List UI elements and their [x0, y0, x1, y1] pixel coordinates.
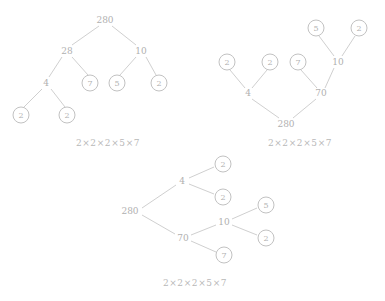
node-10: 10	[135, 47, 146, 56]
tree-edge	[49, 57, 62, 77]
node-7-leaf: 7	[216, 247, 233, 264]
factorization-caption: 2×2×2×5×7	[76, 138, 140, 148]
tree-edge	[142, 185, 176, 208]
node-2-leaf-a: 2	[151, 75, 168, 92]
node-280-root: 280	[121, 207, 138, 216]
node-10: 10	[332, 58, 343, 67]
node-2-leaf-a: 2	[351, 20, 368, 37]
tree-edge	[319, 36, 334, 56]
factorization-caption: 2×2×2×5×7	[268, 138, 332, 148]
tree-edge	[120, 57, 136, 75]
node-5-leaf: 5	[308, 20, 325, 37]
node-280-root: 280	[96, 16, 113, 25]
tree-edge	[342, 36, 355, 56]
node-2-leaf-b: 2	[215, 189, 232, 206]
node-280-root: 280	[277, 120, 294, 129]
tree-edge	[189, 167, 214, 178]
tree-edge	[230, 70, 245, 88]
node-2-leaf-a: 2	[215, 156, 232, 173]
tree-edge	[191, 241, 216, 252]
tree-edge	[72, 26, 99, 45]
tree-edge	[146, 57, 156, 75]
factorization-caption: 2×2×2×5×7	[163, 278, 227, 288]
node-4: 4	[179, 177, 185, 186]
tree-edge	[252, 99, 279, 118]
tree-edge	[112, 26, 136, 45]
tree-edge	[325, 68, 334, 88]
tree-edge	[232, 225, 257, 235]
node-5-leaf: 5	[109, 75, 126, 92]
node-4: 4	[43, 79, 49, 88]
node-7-leaf: 7	[82, 75, 99, 92]
tree-edge	[51, 89, 65, 107]
node-2-leaf-c: 2	[59, 107, 76, 124]
node-2-leaf-b: 2	[219, 54, 236, 71]
factor-tree-figure: 28028104752222×2×2×5×752227104702802×2×2…	[0, 0, 385, 301]
node-4: 4	[245, 89, 251, 98]
node-70: 70	[315, 89, 326, 98]
tree-edge	[252, 70, 267, 88]
tree-edges-layer	[0, 0, 385, 301]
node-2-leaf-b: 2	[13, 107, 30, 124]
tree-edge	[293, 99, 316, 118]
tree-edge	[191, 225, 216, 235]
tree-edge	[72, 57, 88, 75]
node-2-leaf-c: 2	[258, 230, 275, 247]
tree-edge	[24, 89, 42, 107]
node-7-leaf: 7	[290, 54, 307, 71]
node-10: 10	[218, 218, 229, 227]
tree-edge	[301, 70, 317, 88]
node-2-leaf-c: 2	[262, 54, 279, 71]
node-28: 28	[61, 47, 72, 56]
tree-edge	[142, 215, 175, 234]
node-5-leaf: 5	[258, 197, 275, 214]
tree-edge	[232, 208, 257, 219]
tree-edge	[189, 184, 214, 194]
node-70: 70	[177, 234, 188, 243]
